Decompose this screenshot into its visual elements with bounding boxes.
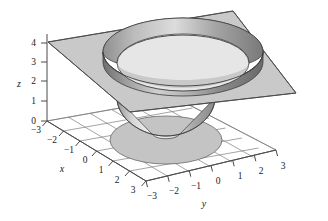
x-tick-label: −3 — [31, 125, 41, 135]
z-axis: 4 3 2 1 0 z — [16, 34, 47, 126]
y-tick-label: 2 — [259, 166, 264, 176]
z-tick-label: 1 — [31, 96, 36, 106]
z-tick-label: 3 — [31, 57, 36, 67]
plot-canvas: 4 3 2 1 0 z −3 −2 −1 0 1 2 3 x — [0, 0, 328, 221]
y-tick-label: −3 — [147, 191, 157, 201]
y-tick-label: −2 — [169, 186, 179, 196]
figure-3d-cone-plane: 4 3 2 1 0 z −3 −2 −1 0 1 2 3 x — [0, 0, 328, 221]
y-tick-label: 3 — [281, 161, 286, 171]
x-tick-label: 0 — [83, 155, 88, 165]
y-tick-label: 1 — [238, 171, 243, 181]
z-tick-label: 4 — [31, 38, 36, 48]
x-tick-label: −1 — [64, 145, 74, 155]
y-tick-label: −1 — [191, 181, 201, 191]
y-axis-label: y — [201, 198, 207, 209]
x-tick-label: 1 — [99, 165, 104, 175]
z-tick-label: 2 — [31, 76, 36, 86]
shadow-disk — [110, 116, 222, 164]
x-axis-label: x — [59, 163, 65, 174]
x-tick-label: −2 — [47, 135, 57, 145]
y-tick-label: 0 — [216, 176, 221, 186]
cone-rim — [103, 18, 263, 96]
x-tick-label: 3 — [131, 185, 136, 195]
z-axis-label: z — [16, 78, 21, 89]
x-tick-label: 2 — [115, 175, 120, 185]
